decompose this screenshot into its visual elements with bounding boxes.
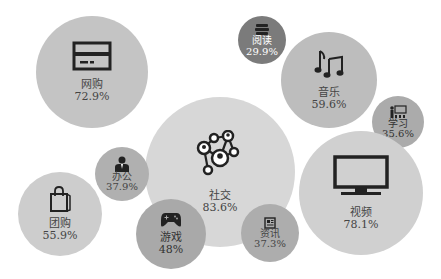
bubble-value: 55.9% [43, 230, 78, 242]
music-notes-icon [314, 49, 344, 79]
monitor-icon [333, 155, 389, 197]
teacher-icon [389, 105, 407, 119]
bubble-value: 37.3% [254, 239, 286, 250]
bubble-shipin: 视频 78.1% [299, 131, 423, 255]
bubble-zixun: 资讯 37.3% [241, 204, 299, 262]
bubble-yuedu: 阅读 29.9% [238, 16, 286, 64]
bubble-value: 29.9% [246, 47, 278, 58]
bubble-value: 48% [159, 244, 183, 256]
bubble-label: 阅读 [252, 36, 272, 47]
bubble-value: 37.9% [106, 182, 138, 193]
bubble-value: 78.1% [344, 219, 379, 231]
shopping-bag-icon [49, 186, 71, 212]
credit-card-icon [72, 41, 112, 71]
bubble-value: 72.9% [75, 91, 110, 103]
newspaper-icon [264, 217, 276, 229]
gamepad-icon [160, 212, 182, 228]
bubble-wanggou: 网购 72.9% [36, 16, 148, 128]
bubble-bangong: 办公 37.9% [95, 147, 149, 201]
bubble-youxi: 游戏 48% [136, 199, 206, 269]
bubble-tuangou: 团购 55.9% [18, 172, 102, 256]
office-worker-icon [114, 156, 130, 172]
social-network-icon [194, 130, 246, 178]
bubble-yinyue: 音乐 59.6% [281, 32, 377, 128]
bubble-value: 83.6% [203, 202, 238, 214]
bubble-value: 59.6% [312, 99, 347, 111]
